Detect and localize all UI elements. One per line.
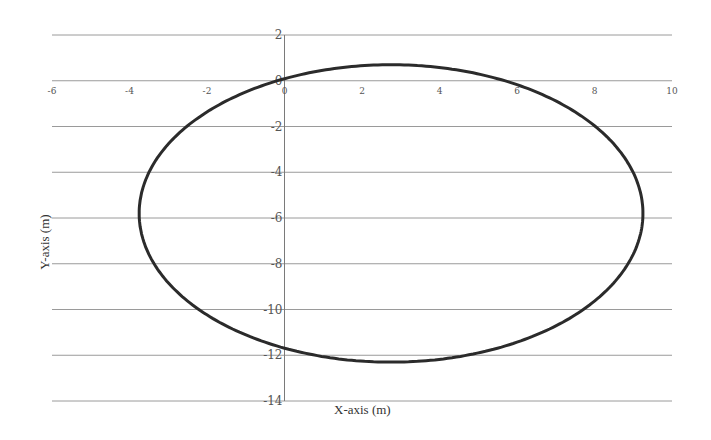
x-tick-labels: -6-4-20246810 <box>48 86 678 96</box>
y-tick-label: -4 <box>271 165 283 179</box>
y-tick-label: -12 <box>263 348 282 362</box>
x-axis-label: X-axis (m) <box>334 402 391 417</box>
x-tick-label: 0 <box>282 86 288 96</box>
y-tick-label: -6 <box>271 211 283 225</box>
y-axis-label: Y-axis (m) <box>37 214 52 269</box>
y-tick-label: 2 <box>275 28 283 42</box>
x-tick-label: 8 <box>592 86 598 96</box>
x-tick-label: -4 <box>125 86 134 96</box>
x-tick-label: 10 <box>666 86 678 96</box>
trajectory-ellipse <box>139 65 643 362</box>
x-tick-label: -2 <box>203 86 212 96</box>
y-tick-label: -8 <box>271 257 283 271</box>
x-tick-label: -6 <box>48 86 57 96</box>
y-tick-label: -2 <box>271 120 283 134</box>
y-tick-label: -10 <box>263 303 282 317</box>
chart-canvas: -6-4-20246810 20-2-4-6-8-10-12-14 X-axis… <box>0 0 711 440</box>
x-tick-label: 6 <box>514 86 520 96</box>
y-tick-label: -14 <box>263 394 283 408</box>
x-tick-label: 4 <box>437 86 443 96</box>
x-tick-label: 2 <box>359 86 365 96</box>
